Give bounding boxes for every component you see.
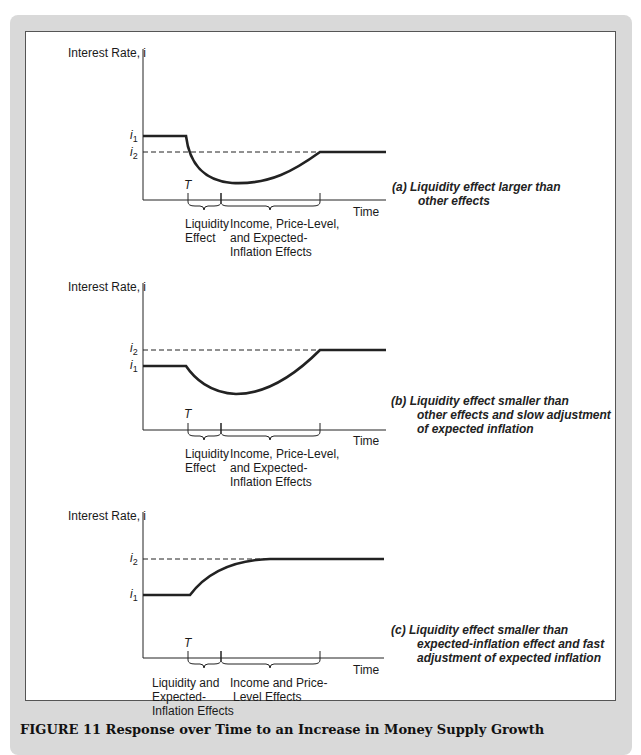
- i1-label-b: i1: [130, 358, 138, 376]
- caption-a: (a) Liquidity effect larger thanother ef…: [392, 180, 560, 208]
- i1-label-a: i1: [130, 128, 138, 146]
- brace1-label-c: Liquidity andExpected-Inflation Effects: [152, 676, 234, 718]
- x-axis-label-c: Time: [353, 663, 379, 677]
- i2-label-a: i2: [130, 145, 138, 163]
- brace2-label-c: Income and Price-Level Effects: [230, 676, 327, 704]
- chart-c: [143, 512, 384, 668]
- brace1-label-b: LiquidityEffect: [185, 447, 229, 475]
- t-label-b: T: [184, 407, 191, 421]
- i2-label-c: i2: [130, 551, 138, 569]
- caption-b: (b) Liquidity effect smaller thanother e…: [391, 394, 611, 436]
- brace1-label-a: LiquidityEffect: [185, 217, 229, 245]
- brace2-label-b: Income, Price-Level,and Expected-Inflati…: [230, 447, 339, 489]
- caption-c: (c) Liquidity effect smaller thanexpecte…: [391, 623, 604, 665]
- y-axis-label-b: Interest Rate, i: [68, 280, 146, 294]
- t-label-a: T: [184, 178, 191, 192]
- chart-a: [143, 49, 386, 210]
- y-axis-label-c: Interest Rate, i: [68, 509, 146, 523]
- brace2-label-a: Income, Price-Level,and Expected-Inflati…: [230, 217, 339, 259]
- t-label-c: T: [184, 636, 191, 650]
- x-axis-label-a: Time: [353, 205, 379, 219]
- y-axis-label-a: Interest Rate, i: [68, 46, 146, 60]
- x-axis-label-b: Time: [353, 434, 379, 448]
- i2-label-b: i2: [130, 341, 138, 359]
- i1-label-c: i1: [130, 587, 138, 605]
- figure-caption: FIGURE 11 Response over Time to an Incre…: [20, 722, 544, 737]
- chart-b: [143, 283, 386, 440]
